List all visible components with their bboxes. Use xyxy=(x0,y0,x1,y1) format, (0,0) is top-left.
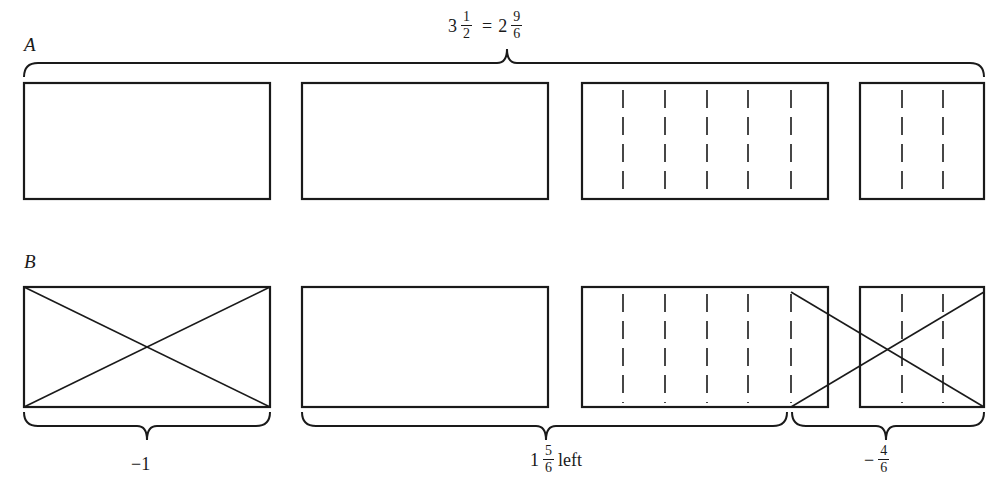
remaining-suffix: left xyxy=(558,451,582,469)
equals-sign: = xyxy=(482,17,492,35)
fraction-denominator: 2 xyxy=(461,26,472,41)
removed-sign: − xyxy=(864,451,874,469)
remaining-fraction: 5 6 xyxy=(543,444,554,475)
row-a-whole-rect-1 xyxy=(24,83,270,199)
fraction-denominator: 6 xyxy=(878,460,889,475)
row-b-whole-rect-2 xyxy=(302,287,548,407)
minus-one-text: −1 xyxy=(131,455,150,473)
equation-whole-right: 2 xyxy=(498,17,507,35)
row-a-whole-rect-2 xyxy=(302,83,548,199)
remaining-whole: 1 xyxy=(530,451,539,469)
row-b-label: B xyxy=(24,252,36,271)
brace-minus-four-sixths xyxy=(792,412,984,440)
row-a-whole-rect-4 xyxy=(860,83,984,199)
fraction-numerator: 1 xyxy=(461,10,472,26)
label-removed: − 4 6 xyxy=(864,444,893,475)
brace-remaining xyxy=(302,412,787,440)
row-a-total-brace xyxy=(24,49,984,77)
label-minus-one: −1 xyxy=(131,455,150,473)
fraction-numerator: 4 xyxy=(878,444,889,460)
top-equation: 3 1 2 = 2 9 6 xyxy=(448,10,526,41)
label-remaining: 1 5 6 left xyxy=(530,444,582,475)
removed-fraction: 4 6 xyxy=(878,444,889,475)
fraction-denominator: 6 xyxy=(543,460,554,475)
row-a-label: A xyxy=(24,35,36,54)
fraction-numerator: 9 xyxy=(511,10,522,26)
equation-whole-left: 3 xyxy=(448,17,457,35)
equation-fraction-left: 1 2 xyxy=(461,10,472,41)
row-b-whole-rect-4 xyxy=(860,287,984,407)
diagram-canvas xyxy=(0,0,1000,503)
fraction-denominator: 6 xyxy=(511,26,522,41)
equation-fraction-right: 9 6 xyxy=(511,10,522,41)
fraction-numerator: 5 xyxy=(543,444,554,460)
brace-minus-one xyxy=(24,412,270,440)
